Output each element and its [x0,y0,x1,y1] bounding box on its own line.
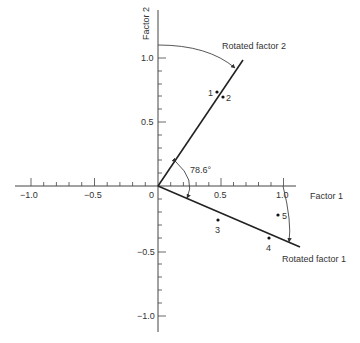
point-label: 2 [226,93,231,103]
data-point-3 [216,218,219,221]
factor-rotation-diagram: −1.0 −0.5 0 0.5 1.0 Factor 1 [0,0,360,343]
data-point-1 [215,90,218,93]
point-label: 4 [266,243,271,253]
data-point-4 [267,236,270,239]
angle-arc [176,162,190,198]
x-tick-label: −1.0 [20,190,38,200]
y-tick-label: −0.5 [137,247,155,257]
x-tick-label: 0.5 [214,190,227,200]
rotated-factor-1-label: Rotated factor 1 [282,254,346,264]
angle-label: 78.6° [190,165,212,175]
origin-label: 0 [149,190,154,200]
x-tick-label: −0.5 [84,190,102,200]
y-tick-label: 1.0 [141,53,154,63]
x-minor-ticks [31,178,284,186]
point-label: 3 [215,225,220,235]
x-tick-label: 1.0 [276,190,289,200]
x-axis-label: Factor 1 [310,191,343,201]
y-tick-label: −1.0 [137,311,155,321]
y-axis: 1.0 0.5 −0.5 −1.0 Factor 2 [137,7,166,332]
y-tick-label: 0.5 [141,117,154,127]
data-point-5 [276,213,279,216]
y-axis-label: Factor 2 [141,7,151,40]
data-points: 1 2 3 4 5 [208,88,287,253]
rotated-factor-2-label: Rotated factor 2 [222,41,286,51]
point-label: 5 [282,211,287,221]
point-label: 1 [208,88,213,98]
data-point-2 [221,95,224,98]
x-axis: −1.0 −0.5 0 0.5 1.0 Factor 1 [15,178,343,201]
